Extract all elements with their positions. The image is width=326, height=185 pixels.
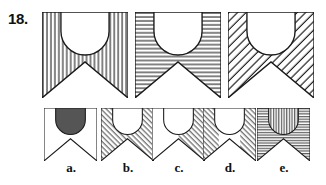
option-a[interactable] xyxy=(44,108,97,161)
option-label-c: c. xyxy=(164,160,194,176)
puzzle-page: 18. xyxy=(0,0,326,185)
prompt-figure-3 xyxy=(228,12,314,98)
option-b[interactable] xyxy=(101,108,154,161)
option-label-d: d. xyxy=(215,160,245,176)
option-labels-row: a. b. c. d. e. xyxy=(0,160,326,182)
prompt-figure-2 xyxy=(135,12,221,98)
option-e[interactable] xyxy=(257,108,310,161)
answer-options-row xyxy=(0,104,326,162)
prompt-figure-1 xyxy=(42,12,128,98)
option-d[interactable] xyxy=(203,108,256,161)
option-label-e: e. xyxy=(269,160,299,176)
option-c[interactable] xyxy=(152,108,205,161)
option-label-b: b. xyxy=(113,160,143,176)
prompt-figures-row xyxy=(0,0,326,104)
option-label-a: a. xyxy=(56,160,86,176)
